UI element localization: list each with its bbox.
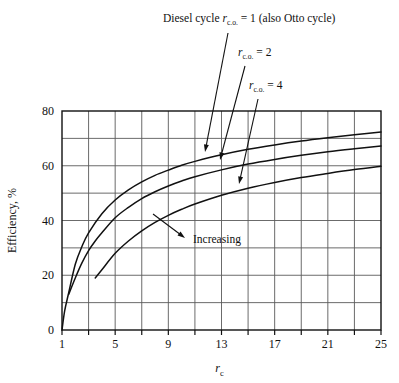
annotation-label-otto: Diesel cycle rc.o. = 1 (also Otto cycle) [163,12,336,27]
annotation-label-rco2: rc.o. = 2 [238,46,272,61]
chart-canvas: 15913172125020406080rcEfficiency, %Diese… [0,0,399,383]
y-tick-label: 40 [42,214,54,228]
leader-arrow-increasing [153,214,185,238]
x-axis-title: rc [215,361,224,378]
y-tick-label: 80 [42,104,54,118]
annotation-label-increasing: Increasing [193,233,241,246]
leader-arrow-otto [204,33,228,152]
annotation-label-rco4-value: = 4 [264,79,282,91]
annotation-label-rco4: rc.o. = 4 [249,79,283,94]
annotation-label-rco4-subscript: c.o. [253,85,264,94]
annotation-label-otto-value: = 1 (also Otto cycle) [238,12,336,25]
annotation-label-otto-prefix: Diesel cycle [163,12,222,25]
x-tick-label: 13 [216,337,228,351]
leader-arrow-rco2 [220,66,245,160]
x-tick-label: 17 [269,337,281,351]
x-axis-title-subscript: c [220,368,224,378]
x-tick-label: 9 [165,337,171,351]
x-tick-label: 21 [322,337,334,351]
x-tick-labels: 15913172125 [59,337,387,351]
leader-arrow-increasing-line [153,214,182,236]
x-tick-label: 1 [59,337,65,351]
leader-arrow-otto-line [206,33,228,148]
efficiency-chart-figure: 15913172125020406080rcEfficiency, %Diese… [0,0,399,383]
curve-series-2 [95,166,381,278]
y-tick-label: 20 [42,268,54,282]
y-axis-title: Efficiency, % [5,188,19,253]
x-axis-ticks [62,330,381,335]
leader-arrow-increasing-head [178,232,186,239]
y-tick-labels: 020406080 [42,104,54,337]
leader-arrow-rco4-head [238,176,243,184]
y-tick-label: 60 [42,159,54,173]
annotation-label-otto-subscript: c.o. [227,18,238,27]
x-tick-label: 5 [112,337,118,351]
gridlines [62,111,381,330]
x-tick-label: 25 [375,337,387,351]
annotation-label-rco2-value: = 2 [253,46,271,58]
annotation-label-rco2-subscript: c.o. [242,52,253,61]
leader-arrow-otto-head [204,144,209,152]
y-tick-label: 0 [48,323,54,337]
